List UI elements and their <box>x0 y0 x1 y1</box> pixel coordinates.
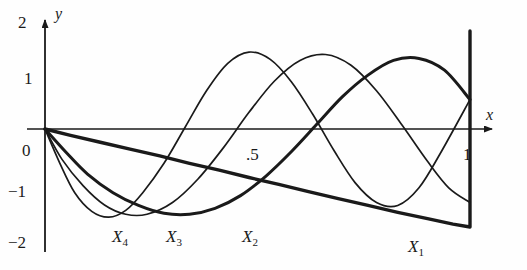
y-tick-label-1: 1 <box>24 70 33 87</box>
curve-label-subscript: 2 <box>252 236 258 248</box>
y-tick-label-minus-1: −1 <box>8 183 26 200</box>
curve-x2 <box>45 58 470 215</box>
curve-x4 <box>45 52 470 217</box>
figure-canvas: y x 2 1 0 −1 −2 .5 1 X4 X3 X2 X1 <box>0 0 527 270</box>
curve-label-subscript: 4 <box>122 236 128 248</box>
x-tick-label-one: 1 <box>463 146 472 163</box>
y-axis-label: y <box>55 6 62 22</box>
curve-label-x3: X3 <box>166 228 182 248</box>
curve-label-subscript: 3 <box>176 236 182 248</box>
curve-label-x2: X2 <box>242 228 258 248</box>
y-tick-label-0: 0 <box>22 142 31 159</box>
x-tick-label-half: .5 <box>246 146 259 163</box>
y-tick-label-2: 2 <box>18 14 27 31</box>
curve-label-subscript: 1 <box>418 246 424 258</box>
plot-svg <box>0 0 527 270</box>
curve-label-base: X <box>166 227 176 246</box>
curve-label-base: X <box>242 227 252 246</box>
y-tick-label-minus-2: −2 <box>8 234 26 251</box>
curve-label-base: X <box>112 227 122 246</box>
curve-label-x1: X1 <box>408 238 424 258</box>
curve-label-base: X <box>408 237 418 256</box>
x-axis-label: x <box>486 107 493 123</box>
curve-label-x4: X4 <box>112 228 128 248</box>
